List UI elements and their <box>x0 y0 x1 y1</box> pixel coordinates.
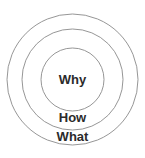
ring-label-what: What <box>57 129 89 144</box>
golden-circle-svg: Why How What <box>0 0 145 158</box>
golden-circle-diagram: Why How What <box>0 0 145 158</box>
ring-label-why: Why <box>59 72 87 87</box>
ring-label-how: How <box>59 110 87 125</box>
